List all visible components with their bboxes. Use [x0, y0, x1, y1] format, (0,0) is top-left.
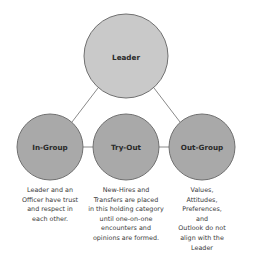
leader-label: Leader — [112, 53, 140, 62]
connector-leader-ingroup — [72, 88, 98, 122]
outgroup-description: Values, Attitudes, Preferences, and Outl… — [176, 186, 229, 253]
ingroup-label: In-Group — [32, 143, 67, 152]
tryout-description: New-Hires and Transfers are placed in th… — [88, 186, 164, 244]
ingroup-description: Leader and an Officer have trust and res… — [22, 186, 78, 224]
connector-leader-outgroup — [154, 88, 180, 122]
outgroup-label: Out-Group — [181, 143, 223, 152]
tryout-label: Try-Out — [111, 143, 141, 152]
